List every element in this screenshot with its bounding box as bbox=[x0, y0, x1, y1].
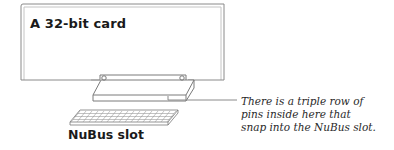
nubus-slot bbox=[70, 110, 178, 125]
card-connector bbox=[91, 75, 194, 101]
callout-line: snap into the NuBus slot. bbox=[241, 121, 391, 134]
nubus-card-diagram: A 32-bit card NuBus slot There is a trip… bbox=[0, 0, 394, 150]
card-title: A 32-bit card bbox=[30, 16, 126, 31]
slot-label: NuBus slot bbox=[68, 127, 144, 142]
pins-callout: There is a triple row of pins inside her… bbox=[241, 95, 391, 134]
callout-leader-line bbox=[168, 96, 237, 100]
callout-line: pins inside here that bbox=[241, 108, 391, 121]
callout-line: There is a triple row of bbox=[241, 95, 391, 108]
